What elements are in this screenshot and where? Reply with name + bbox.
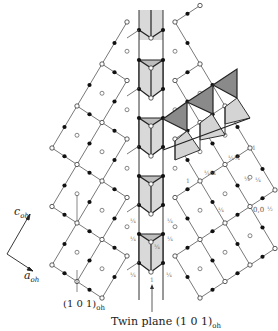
open-center	[100, 208, 104, 212]
open-node	[125, 78, 129, 82]
lattice-edge	[127, 30, 139, 38]
open-node	[100, 237, 104, 241]
open-node	[198, 296, 202, 300]
filled-atom	[260, 225, 264, 229]
open-node	[100, 120, 104, 124]
fraction-label: ¼	[130, 272, 136, 277]
open-node	[173, 254, 177, 258]
filled-atom	[87, 171, 91, 175]
filled-atom	[112, 129, 116, 133]
filled-atom	[185, 275, 189, 279]
twin-plane-text: Twin plane (1 0 1)	[111, 315, 212, 328]
filled-atom	[185, 70, 189, 74]
filled-atom	[87, 288, 91, 292]
fraction-label: ¼	[130, 236, 136, 241]
fraction-label: ¼	[244, 176, 250, 181]
dark-triangle	[163, 102, 187, 131]
filled-atom	[185, 187, 189, 191]
filled-atom	[87, 83, 91, 87]
open-center	[173, 166, 177, 170]
filled-atom	[210, 229, 214, 233]
filled-atom	[210, 258, 214, 262]
crystal-lattice-diagram	[0, 0, 278, 331]
open-node	[173, 20, 177, 24]
filled-atom	[210, 288, 214, 292]
open-node	[273, 188, 277, 192]
c-axis-subscript: oh	[20, 212, 29, 220]
filled-atom	[87, 112, 91, 116]
lattice-edge	[127, 146, 139, 154]
lattice-edge	[127, 88, 139, 96]
fraction-label: ¼	[234, 155, 240, 160]
fraction-label: ¼	[218, 207, 224, 212]
open-center	[75, 250, 79, 254]
open-center	[248, 234, 252, 238]
open-node	[273, 246, 277, 250]
filled-atom	[161, 203, 165, 207]
lattice-edge	[127, 262, 139, 270]
filled-atom	[185, 41, 189, 45]
fraction-label: 1	[252, 145, 256, 150]
filled-atom	[235, 125, 239, 129]
open-node	[198, 62, 202, 66]
open-node	[248, 263, 252, 267]
filled-atom	[161, 261, 165, 265]
open-node	[198, 3, 202, 7]
filled-atom	[185, 216, 189, 220]
light-triangle	[200, 114, 225, 140]
open-center	[223, 192, 227, 196]
a-axis-subscript: oh	[31, 276, 40, 284]
filled-atom	[161, 232, 165, 236]
filled-atom	[62, 183, 66, 187]
fraction-label: ¼	[167, 218, 173, 223]
fraction-label: ¼	[167, 236, 173, 241]
fraction-label: ¾	[154, 244, 160, 249]
open-node	[125, 137, 129, 141]
filled-atom	[62, 271, 66, 275]
open-node	[248, 204, 252, 208]
filled-atom	[235, 183, 239, 187]
filled-atom	[185, 12, 189, 16]
fraction-label: ¼	[166, 272, 172, 277]
light-triangle	[175, 131, 200, 160]
filled-atom	[235, 213, 239, 217]
open-node	[149, 240, 153, 244]
filled-atom	[161, 28, 165, 32]
lattice-edge	[127, 204, 139, 212]
open-center	[125, 108, 129, 112]
open-center	[125, 225, 129, 229]
open-node	[75, 104, 79, 108]
fraction-label: ¼	[210, 170, 216, 175]
open-node	[125, 20, 129, 24]
dark-triangle	[213, 69, 237, 98]
filled-atom	[161, 174, 165, 178]
filled-atom	[185, 246, 189, 250]
filled-atom	[235, 242, 239, 246]
filled-atom	[210, 200, 214, 204]
open-node	[223, 162, 227, 166]
open-node	[50, 263, 54, 267]
fraction-label: ¼	[204, 170, 210, 175]
fraction-label: ½	[267, 206, 273, 211]
open-center	[75, 133, 79, 137]
axis-arrows	[7, 214, 33, 271]
filled-atom	[112, 275, 116, 279]
open-node	[223, 221, 227, 225]
filled-atom	[161, 87, 165, 91]
filled-atom	[137, 58, 141, 62]
origin-coordinate-label: 0,0	[253, 206, 264, 214]
open-center	[173, 225, 177, 229]
open-center	[100, 150, 104, 154]
filled-atom	[112, 158, 116, 162]
filled-atom	[260, 196, 264, 200]
filled-atom	[112, 216, 116, 220]
filled-atom	[260, 167, 264, 171]
open-node	[223, 279, 227, 283]
fraction-label: ¼	[228, 155, 234, 160]
open-node	[125, 254, 129, 258]
open-node	[100, 179, 104, 183]
open-center	[125, 166, 129, 170]
open-node	[149, 270, 153, 274]
filled-atom	[62, 154, 66, 158]
open-node	[125, 195, 129, 199]
